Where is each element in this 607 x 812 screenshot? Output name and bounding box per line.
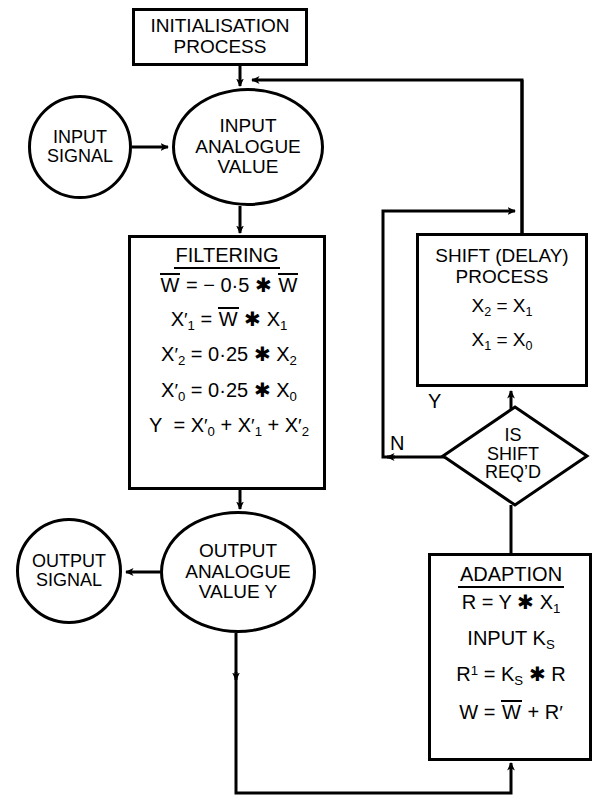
decision-line3: REQ’D	[458, 463, 568, 482]
shift-eq1: X2 = X1	[419, 296, 585, 319]
node-adaption[interactable]: ADAPTION R = Y ✱ X1 INPUT KS R1 = KS ✱ R…	[428, 553, 592, 761]
input-signal-line1: INPUT	[47, 128, 113, 147]
adaption-eq2: INPUT KS	[443, 628, 579, 652]
output-signal-line2: SIGNAL	[32, 571, 106, 590]
filtering-title: FILTERING	[141, 245, 313, 267]
init-line2: PROCESS	[150, 37, 289, 58]
node-output-analogue-value[interactable]: OUTPUT ANALOGUE VALUE Y	[160, 511, 316, 633]
input-signal-line2: SIGNAL	[47, 147, 113, 166]
decision-label: IS SHIFT REQ’D	[458, 426, 568, 482]
adaption-title: ADAPTION	[443, 564, 579, 586]
adaption-equations: R = Y ✱ X1 INPUT KS R1 = KS ✱ R W = W + …	[443, 592, 579, 724]
node-filtering[interactable]: FILTERING W = − 0·5 ✱ W X′1 = W ✱ X1 X′2…	[128, 235, 326, 490]
node-shift-delay-process[interactable]: SHIFT (DELAY) PROCESS X2 = X1 X1 = X0	[416, 233, 588, 387]
node-input-signal[interactable]: INPUT SIGNAL	[28, 95, 132, 199]
adaption-eq3: R1 = KS ✱ R	[443, 664, 579, 688]
equation-y: Y = X′0 + X′1 + X′2	[141, 415, 313, 439]
init-line1: INITIALISATION	[150, 16, 289, 37]
output-analogue-line1: OUTPUT	[185, 541, 291, 562]
input-analogue-line2: ANALOGUE	[195, 137, 301, 158]
node-initialisation-process[interactable]: INITIALISATION PROCESS	[132, 8, 308, 66]
shift-eq2: X1 = X0	[419, 330, 585, 353]
equation-x2: X′2 = 0·25 ✱ X2	[141, 344, 313, 368]
node-output-signal[interactable]: OUTPUT SIGNAL	[16, 518, 122, 624]
node-input-analogue-value[interactable]: INPUT ANALOGUE VALUE	[172, 88, 324, 206]
output-signal-line1: OUTPUT	[32, 552, 106, 571]
output-analogue-line3: VALUE Y	[185, 582, 291, 603]
equation-x0: X′0 = 0·25 ✱ X0	[141, 380, 313, 404]
flowchart-canvas: INITIALISATION PROCESS INPUT SIGNAL INPU…	[0, 0, 607, 812]
branch-label-yes: Y	[428, 390, 441, 413]
adaption-eq4: W = W + R′	[443, 700, 579, 724]
input-analogue-line3: VALUE	[195, 157, 301, 178]
decision-line1: IS	[458, 426, 568, 445]
decision-line2: SHIFT	[458, 445, 568, 464]
branch-label-no: N	[390, 432, 404, 455]
shift-line1: SHIFT (DELAY)	[419, 246, 585, 267]
equation-x1: X′1 = W ✱ X1	[141, 307, 313, 333]
input-analogue-line1: INPUT	[195, 116, 301, 137]
output-analogue-line2: ANALOGUE	[185, 562, 291, 583]
equation-w: W = − 0·5 ✱ W	[141, 273, 313, 297]
shift-line2: PROCESS	[419, 267, 585, 288]
filtering-equations: W = − 0·5 ✱ W X′1 = W ✱ X1 X′2 = 0·25 ✱ …	[141, 273, 313, 439]
adaption-eq1: R = Y ✱ X1	[443, 592, 579, 616]
